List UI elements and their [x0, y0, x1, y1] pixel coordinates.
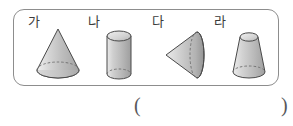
figure-item-da: 다 [146, 10, 212, 85]
figure-label-da: 다 [152, 15, 164, 29]
cone-upright-icon [32, 27, 84, 83]
answer-row: ( ) [0, 92, 293, 122]
frustum-icon [228, 27, 270, 83]
figure-label-ra: 라 [214, 15, 226, 29]
figures-panel: 가 [13, 9, 279, 86]
answer-open-paren: ( [134, 92, 141, 118]
figure-item-ga: 가 [20, 10, 86, 85]
figure-item-na: 나 [86, 10, 146, 85]
answer-blank[interactable] [144, 92, 278, 118]
cone-sideways-icon [164, 27, 208, 83]
cylinder-icon [104, 27, 134, 83]
answer-close-paren: ) [281, 92, 288, 118]
figure-label-na: 나 [88, 15, 100, 29]
figure-item-ra: 라 [212, 10, 276, 85]
